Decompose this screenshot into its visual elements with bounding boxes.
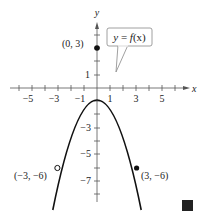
closed-endpoint — [134, 165, 139, 170]
callout-eq: = — [118, 31, 130, 43]
x-tick-label: 1 — [108, 93, 113, 104]
y-tick-label: −7 — [80, 175, 91, 186]
function-graph: x −5 −3 −1 1 3 5 y 1 −3 −5 −7 y = f(x) — [0, 0, 200, 216]
x-axis: x −5 −3 −1 1 3 5 — [10, 83, 197, 104]
vertex-point — [94, 45, 100, 51]
vertex-label: (0, 3) — [62, 38, 84, 50]
y-axis-label: y — [94, 7, 100, 18]
function-callout: y = f(x) — [107, 28, 152, 72]
right-point-label: (3, −6) — [141, 170, 168, 182]
x-tick-label: 5 — [160, 93, 165, 104]
y-tick-label: −3 — [80, 122, 91, 133]
open-endpoint — [55, 165, 60, 170]
x-axis-label: x — [191, 83, 197, 94]
svg-text:y = f(x): y = f(x) — [112, 31, 146, 44]
y-axis: y 1 −3 −5 −7 — [80, 7, 100, 202]
graph-canvas: x −5 −3 −1 1 3 5 y 1 −3 −5 −7 y = f(x) — [0, 0, 200, 216]
x-tick-label: −5 — [23, 93, 34, 104]
x-axis-arrow-icon — [183, 86, 190, 90]
x-tick-label: −3 — [49, 93, 60, 104]
end-marker-square — [182, 200, 193, 211]
x-tick-label: −1 — [75, 93, 86, 104]
y-tick-label: −5 — [80, 148, 91, 159]
left-point-label: (−3, −6) — [14, 170, 47, 182]
y-axis-arrow-icon — [95, 22, 99, 29]
y-tick-label: 1 — [85, 69, 90, 80]
x-tick-label: 3 — [134, 93, 139, 104]
callout-arg: (x) — [133, 31, 146, 44]
